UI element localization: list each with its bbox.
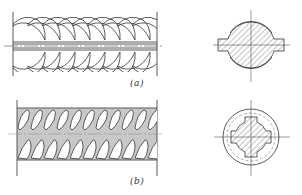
panel-a-side-view: [4, 12, 165, 76]
rebar-diagram: [0, 0, 302, 195]
panel-a-top-crescents: [13, 17, 165, 40]
panel-b-side-view: [8, 100, 162, 176]
panel-a-label: (a): [130, 78, 144, 88]
panel-a-cross-section: [213, 10, 290, 82]
panel-b-cross-section: [214, 100, 290, 176]
panel-b-label: (b): [130, 176, 144, 186]
panel-a-bottom-crescents: [13, 52, 165, 75]
